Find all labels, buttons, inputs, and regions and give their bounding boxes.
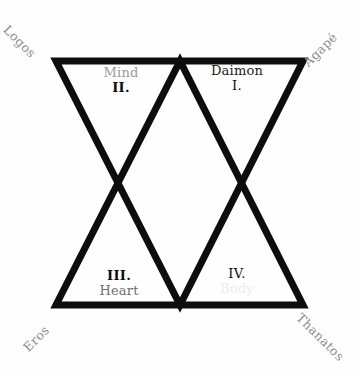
quadrant-ii-label: Mind II.	[61, 65, 181, 95]
quadrant-i-numeral: I.	[177, 78, 297, 93]
diagram-canvas: Logos Agapé Eros Thanatos Mind II. Daimo…	[0, 0, 361, 375]
quadrant-ii-numeral: II.	[61, 80, 181, 95]
quadrant-iii-word: Heart	[59, 283, 179, 298]
quadrant-iv-label: IV. Body	[177, 266, 297, 296]
quadrant-i-word: Daimon	[177, 63, 297, 78]
quadrant-iv-word: Body	[177, 281, 297, 296]
quadrant-i-label: Daimon I.	[177, 63, 297, 93]
quadrant-ii-word: Mind	[61, 65, 181, 80]
quadrant-iii-label: III. Heart	[59, 268, 179, 298]
quadrant-iv-numeral: IV.	[177, 266, 297, 281]
quadrant-iii-numeral: III.	[59, 268, 179, 283]
